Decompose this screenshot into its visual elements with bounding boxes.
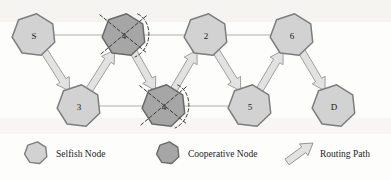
node-s[interactable]: S [12, 14, 55, 55]
node-label: 3 [77, 102, 82, 112]
legend-item-routing: Routing Path [285, 143, 370, 165]
legend-item-selfish: Selfish Node [25, 142, 106, 164]
legend-item-label: Cooperative Node [188, 149, 257, 159]
node-label: S [31, 31, 36, 41]
node-n3[interactable]: 3 [57, 85, 100, 126]
legend-swatch-routing-arrow [285, 143, 313, 165]
legend-item-label: Selfish Node [56, 149, 105, 159]
routing-path-arrow [130, 49, 156, 91]
routing-path-arrow [85, 50, 114, 93]
node-label: 6 [290, 31, 295, 41]
legend-item-cooperative: Cooperative Node [157, 142, 258, 164]
node-label: 5 [248, 102, 253, 112]
routing-path-arrow [256, 50, 283, 93]
routing-path-arrow [298, 48, 325, 91]
node-n6[interactable]: 6 [270, 14, 313, 55]
legend-item-label: Routing Path [320, 149, 370, 159]
routing-path-arrow [170, 50, 197, 93]
node-label: 2 [204, 31, 209, 41]
routing-path-arrow [212, 48, 241, 91]
legend: Selfish NodeCooperative NodeRouting Path [25, 142, 371, 165]
diagram-canvas: S426345D Selfish NodeCooperative NodeRou… [0, 0, 391, 180]
node-d[interactable]: D [312, 85, 355, 126]
node-n2[interactable]: 2 [184, 14, 227, 55]
node-label: D [331, 102, 338, 112]
legend-swatch-heptagon [25, 142, 47, 164]
routing-path-arrow [40, 48, 69, 91]
legend-swatch-heptagon [157, 142, 179, 164]
node-n5[interactable]: 5 [228, 85, 271, 126]
network-routing-diagram: S426345D Selfish NodeCooperative NodeRou… [0, 0, 391, 180]
